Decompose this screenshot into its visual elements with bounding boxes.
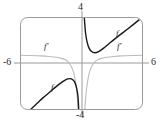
y-max-label: 4 xyxy=(78,2,83,12)
function-label-upper: f xyxy=(116,29,119,38)
graph-figure: 4 -4 -6 6 f f f' f' xyxy=(0,0,164,123)
x-min-label: -6 xyxy=(3,57,11,67)
function-label-lower: f xyxy=(51,83,54,92)
plot-canvas xyxy=(0,0,164,123)
derivative-label-right: f' xyxy=(117,42,121,51)
x-max-label: 6 xyxy=(151,57,156,67)
derivative-label-left: f' xyxy=(44,42,48,51)
y-min-label: -4 xyxy=(76,110,84,120)
